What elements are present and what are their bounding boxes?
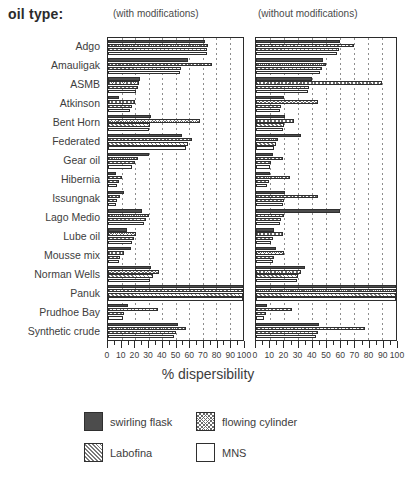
- bar: [108, 293, 243, 296]
- bar-group: [108, 265, 243, 284]
- bar: [256, 71, 320, 74]
- x-tick-label: 40: [307, 350, 317, 360]
- bar: [108, 165, 132, 168]
- category-label: Issungnak: [0, 189, 104, 208]
- bar-group: [256, 151, 396, 170]
- bar: [256, 214, 284, 217]
- axis-tick-minor: [114, 341, 115, 345]
- x-tick-label: 80: [212, 350, 222, 360]
- axis-tick-minor: [182, 341, 183, 345]
- bar: [108, 222, 144, 225]
- axis-tick-major: [369, 341, 370, 348]
- axis-tick-major: [269, 341, 270, 348]
- bar-group: [256, 302, 396, 321]
- bar-group: [108, 189, 243, 208]
- bar: [256, 203, 283, 206]
- bar-group: [256, 265, 396, 284]
- axis-tick-major: [340, 341, 341, 348]
- bar: [256, 77, 312, 80]
- bar: [256, 100, 318, 103]
- category-label: Hibernia: [0, 170, 104, 189]
- bar: [256, 218, 281, 221]
- bar-group: [108, 227, 243, 246]
- bar-group: [108, 321, 243, 340]
- bar: [108, 199, 117, 202]
- bar: [108, 176, 122, 179]
- bar: [256, 331, 318, 334]
- x-tick-label: 90: [226, 350, 236, 360]
- bar: [108, 48, 207, 51]
- bar-group: [256, 95, 396, 114]
- bar: [256, 58, 323, 61]
- bar: [256, 138, 278, 141]
- bar: [108, 297, 243, 300]
- bar: [108, 71, 180, 74]
- bar: [108, 96, 119, 99]
- bar: [108, 86, 138, 89]
- bar: [108, 218, 146, 221]
- bar: [256, 119, 294, 122]
- bar: [256, 176, 290, 179]
- bar: [256, 142, 276, 145]
- legend-item: MNS: [196, 443, 354, 462]
- bar-group: [256, 38, 396, 57]
- legend-item: Labofina: [84, 443, 196, 462]
- bar: [256, 184, 267, 187]
- solid-dark-swatch: [84, 412, 103, 431]
- bar: [256, 279, 297, 282]
- category-label: Gear oil: [0, 151, 104, 170]
- bar: [256, 293, 396, 296]
- category-label: Atkinson: [0, 94, 104, 113]
- x-tick-label: 20: [279, 350, 289, 360]
- bar: [256, 237, 273, 240]
- bar: [108, 128, 149, 131]
- bar: [108, 285, 243, 288]
- bar: [256, 161, 271, 164]
- axis-tick-major: [397, 341, 398, 348]
- x-tick-label: 80: [364, 350, 374, 360]
- bar: [108, 157, 138, 160]
- axis-tick-major: [230, 341, 231, 348]
- axis-tick-major: [203, 341, 204, 348]
- bar: [108, 304, 128, 307]
- axis-tick-major: [383, 341, 384, 348]
- panel-caption-with-modifications: (with modifications): [113, 8, 199, 19]
- chart-figure: oil type: (with modifications) (without …: [0, 0, 416, 496]
- bar: [256, 228, 274, 231]
- bar: [108, 191, 124, 194]
- axis-tick-major: [255, 341, 256, 348]
- bar: [108, 228, 127, 231]
- x-tick-label: 60: [335, 350, 345, 360]
- gridline: [243, 38, 244, 340]
- bar: [256, 241, 271, 244]
- x-tick-label: 100: [237, 350, 251, 360]
- axis-tick-minor: [291, 341, 292, 345]
- axis-tick-major: [298, 341, 299, 348]
- bar: [256, 96, 284, 99]
- axis-tick-minor: [347, 341, 348, 345]
- bar: [108, 256, 120, 259]
- bar: [256, 316, 264, 319]
- bar: [256, 40, 340, 43]
- bar: [108, 81, 139, 84]
- axis-tick-major: [326, 341, 327, 348]
- x-tick-label: 30: [143, 350, 153, 360]
- category-label: ASMB: [0, 75, 104, 94]
- x-tick-label: 90: [378, 350, 388, 360]
- x-tick-label: 10: [116, 350, 126, 360]
- bar-group: [108, 170, 243, 189]
- category-label: Panuk: [0, 284, 104, 303]
- bar-group: [108, 76, 243, 95]
- bar-group: [108, 57, 243, 76]
- bar: [108, 266, 151, 269]
- bar-group: [256, 246, 396, 265]
- bar-group: [256, 283, 396, 302]
- bar: [108, 134, 182, 137]
- bar-group: [256, 114, 396, 133]
- bar: [256, 52, 337, 55]
- axis-tick-major: [148, 341, 149, 348]
- x-tick-label: 60: [184, 350, 194, 360]
- category-label: Amauligak: [0, 56, 104, 75]
- bar-group: [256, 76, 396, 95]
- bar: [108, 237, 134, 240]
